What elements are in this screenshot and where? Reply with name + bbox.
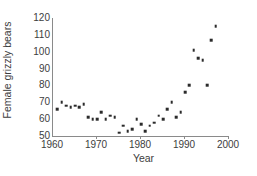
data-point xyxy=(61,101,64,104)
x-axis-tickmark-1970 xyxy=(96,136,97,139)
y-axis-tick-110: 110 xyxy=(26,30,50,40)
plot-area xyxy=(52,18,229,137)
data-point xyxy=(153,121,156,124)
y-axis-tick-80: 80 xyxy=(26,80,50,90)
data-point xyxy=(201,59,204,62)
data-point xyxy=(197,57,200,60)
data-point xyxy=(74,104,77,107)
data-point xyxy=(140,123,143,126)
y-axis-tick-120: 120 xyxy=(26,13,50,23)
data-point xyxy=(83,103,86,106)
x-axis-tick-1990: 1990 xyxy=(164,139,204,150)
y-axis-label-text: Female grizzly bears xyxy=(1,22,13,119)
data-point xyxy=(144,130,147,133)
data-point xyxy=(56,108,59,111)
x-axis-tickmark-2000 xyxy=(228,136,229,139)
data-point xyxy=(179,111,182,114)
y-axis-tick-70: 70 xyxy=(26,97,50,107)
x-axis-label-text: Year xyxy=(133,152,154,164)
data-point xyxy=(149,125,152,128)
data-point xyxy=(157,114,160,117)
x-axis-tick-1980: 1980 xyxy=(120,139,160,150)
data-point xyxy=(122,125,125,128)
data-point xyxy=(96,118,99,121)
data-point xyxy=(118,131,121,134)
data-point xyxy=(131,128,134,131)
data-point xyxy=(100,111,103,114)
data-point xyxy=(175,116,178,119)
data-point-layer xyxy=(53,18,229,136)
x-axis-tick-2000: 2000 xyxy=(208,139,248,150)
data-point xyxy=(162,118,165,121)
data-point xyxy=(78,106,81,109)
data-point xyxy=(65,104,68,107)
x-axis-label: Year xyxy=(0,152,257,164)
data-point xyxy=(166,108,169,111)
grizzly-bear-scatter-chart: Female grizzly bears 5060708090100110120… xyxy=(0,0,257,176)
data-point xyxy=(184,91,187,94)
y-axis-tick-100: 100 xyxy=(26,47,50,57)
x-axis-tickmark-1980 xyxy=(140,136,141,139)
data-point xyxy=(206,84,209,87)
y-axis-tick-60: 60 xyxy=(26,114,50,124)
data-point xyxy=(109,114,112,117)
x-axis-tick-labels: 19601970198019902000 xyxy=(0,139,257,153)
y-axis-tick-90: 90 xyxy=(26,64,50,74)
x-axis-tick-1960: 1960 xyxy=(32,139,72,150)
data-point xyxy=(105,118,108,121)
data-point xyxy=(135,118,138,121)
data-point xyxy=(87,116,90,119)
data-point xyxy=(127,130,130,133)
data-point xyxy=(91,118,94,121)
data-point xyxy=(113,116,116,119)
data-point xyxy=(193,49,196,52)
data-point xyxy=(171,101,174,104)
x-axis-tickmark-1990 xyxy=(184,136,185,139)
data-point xyxy=(215,25,218,28)
data-point xyxy=(69,106,72,109)
x-axis-tick-1970: 1970 xyxy=(76,139,116,150)
data-point xyxy=(188,84,191,87)
data-point xyxy=(210,39,213,42)
y-axis-label: Female grizzly bears xyxy=(0,0,14,140)
